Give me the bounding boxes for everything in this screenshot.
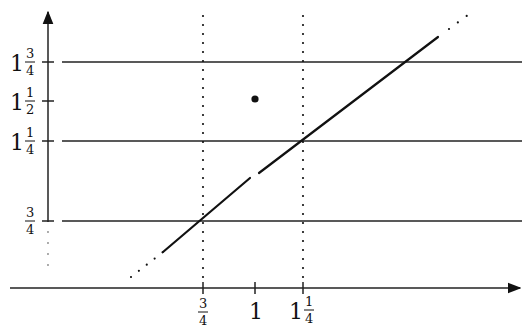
svg-text:1: 1 <box>10 130 24 155</box>
svg-text:1: 1 <box>10 51 24 76</box>
svg-text:1: 1 <box>305 294 313 309</box>
svg-text:4: 4 <box>26 142 34 157</box>
svg-text:4: 4 <box>199 313 207 328</box>
y-axis <box>42 12 54 272</box>
x-label-1: 1 <box>249 299 263 324</box>
svg-text:1: 1 <box>26 125 34 140</box>
svg-text:3: 3 <box>26 46 34 61</box>
diagonal-line <box>131 12 472 277</box>
diagonal-upper-dotted <box>449 12 472 29</box>
svg-text:4: 4 <box>26 63 34 78</box>
y-label-1-3-4: 1 3 4 <box>10 46 35 78</box>
y-tick-labels: 1 3 4 1 1 2 1 1 4 3 4 <box>10 46 35 237</box>
svg-text:1: 1 <box>249 299 263 324</box>
y-label-3-4: 3 4 <box>25 205 35 237</box>
x-tick-labels: 3 4 1 1 1 4 <box>198 294 314 328</box>
y-label-1-1-4: 1 1 4 <box>10 125 35 157</box>
svg-text:3: 3 <box>26 205 34 220</box>
diagonal-lower-dotted <box>131 252 163 277</box>
x-label-1-1-4: 1 1 4 <box>289 294 314 326</box>
horizontal-reference-lines <box>62 62 522 221</box>
svg-text:1: 1 <box>26 85 34 100</box>
diagram-canvas: 1 3 4 1 1 2 1 1 4 3 4 3 4 1 <box>0 0 522 332</box>
svg-text:3: 3 <box>199 296 207 311</box>
isolated-point <box>251 95 258 102</box>
svg-text:1: 1 <box>289 299 303 324</box>
svg-text:2: 2 <box>26 102 34 117</box>
svg-text:4: 4 <box>26 222 34 237</box>
diagonal-lower-segment <box>163 178 250 252</box>
svg-text:4: 4 <box>305 311 313 326</box>
x-label-3-4: 3 4 <box>198 296 208 328</box>
x-axis <box>10 282 520 294</box>
diagonal-upper-segment <box>259 37 438 173</box>
y-label-1-1-2: 1 1 2 <box>10 85 35 117</box>
svg-text:1: 1 <box>10 90 24 115</box>
